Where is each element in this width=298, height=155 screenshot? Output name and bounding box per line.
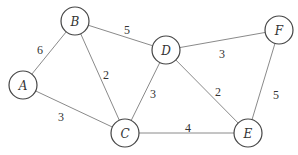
node-d: D — [152, 36, 180, 64]
node-c: C — [111, 119, 139, 147]
node-label: D — [160, 44, 171, 58]
edge-weight-b-c: 2 — [103, 68, 109, 82]
edge-a-c — [23, 85, 125, 133]
node-label: A — [18, 79, 28, 93]
node-b: B — [61, 7, 89, 35]
edge-weight-a-c: 3 — [58, 110, 64, 124]
edge-weight-f-e: 5 — [273, 88, 279, 102]
edge-weight-c-d: 3 — [150, 87, 156, 101]
edge-weight-b-d: 5 — [124, 23, 130, 37]
node-label: C — [120, 127, 129, 141]
node-f: F — [265, 16, 293, 44]
edge-f-e — [248, 30, 279, 133]
edge-weight-a-b: 6 — [37, 43, 43, 57]
node-e: E — [234, 119, 262, 147]
graph-diagram: 652333245 ABCDEF — [0, 0, 298, 155]
nodes-layer: ABCDEF — [9, 7, 293, 147]
node-label: E — [243, 127, 253, 141]
edge-weight-d-f: 3 — [219, 47, 225, 61]
edge-weight-d-e: 2 — [215, 85, 221, 99]
node-label: F — [274, 24, 284, 38]
edge-weight-c-e: 4 — [185, 121, 191, 135]
edge-b-c — [75, 21, 125, 133]
node-label: B — [70, 15, 80, 29]
edge-d-e — [166, 50, 248, 133]
graph-svg: 652333245 ABCDEF — [0, 0, 298, 155]
node-a: A — [9, 71, 37, 99]
